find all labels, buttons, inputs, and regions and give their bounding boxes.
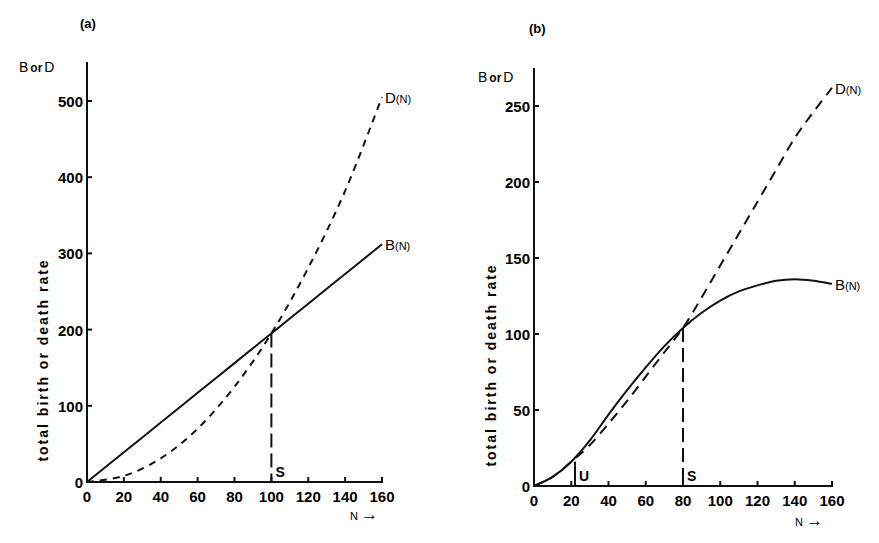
panel-a-y-corner-label: BorD [19,59,54,75]
x-tick-label: 60 [637,492,654,509]
panel-b-birth-label: B(N) [835,276,860,293]
panel-b-x-axis-title: N→ [795,511,823,530]
panel-a-label: (a) [80,16,96,31]
x-tick-label: 160 [369,488,394,505]
x-tick-label: 60 [189,488,206,505]
x-tick-label: 0 [83,488,91,505]
y-tick-label: 100 [505,326,530,343]
panel-b-death-curve [534,88,832,486]
panel-a: (a) BorD total birth or death rate 01002… [19,16,411,524]
x-tick-label: 80 [675,492,692,509]
x-tick-label: 80 [226,488,243,505]
y-tick-label: 200 [58,322,83,339]
x-tick-label: 0 [530,492,538,509]
y-tick-label: 200 [505,174,530,191]
y-tick-label: 400 [58,169,83,186]
x-tick-label: 160 [819,492,844,509]
y-tick-label: 0 [522,478,530,495]
x-tick-label: 40 [600,492,617,509]
panel-b: (b) BorD total birth or death rate 05010… [478,21,861,530]
y-tick-label: 100 [58,398,83,415]
panel-b-death-label: D(N) [835,80,861,97]
panel-a-birth-curve [87,244,382,482]
x-tick-label: 40 [152,488,169,505]
y-tick-label: 150 [505,250,530,267]
y-tick-label: 500 [58,93,83,110]
x-tick-label: 120 [296,488,321,505]
x-tick-label: 140 [333,488,358,505]
x-tick-label: 140 [782,492,807,509]
y-tick-label: 0 [75,474,83,491]
panel-a-s-marker-label: S [275,464,284,480]
figure-canvas: (a) BorD total birth or death rate 01002… [0,0,879,543]
y-tick-label: 300 [58,245,83,262]
panel-a-death-label: D(N) [385,89,411,106]
panel-a-death-curve [87,97,382,482]
y-tick-label: 50 [513,402,530,419]
panel-b-label: (b) [529,21,546,36]
x-tick-label: 100 [259,488,284,505]
panel-a-y-axis-title: total birth or death rate [35,258,51,461]
x-tick-label: 20 [116,488,133,505]
x-tick-label: 100 [708,492,733,509]
x-tick-label: 120 [745,492,770,509]
panel-a-birth-label: B(N) [385,236,410,253]
panel-b-y-corner-label: BorD [478,69,513,85]
panel-b-u-marker-label: U [579,468,589,484]
y-tick-label: 250 [505,98,530,115]
panel-a-x-axis-title: N→ [350,505,378,524]
panel-b-y-axis-title: total birth or death rate [483,263,499,466]
x-tick-label: 20 [563,492,580,509]
panel-b-s-marker-label: S [687,468,696,484]
